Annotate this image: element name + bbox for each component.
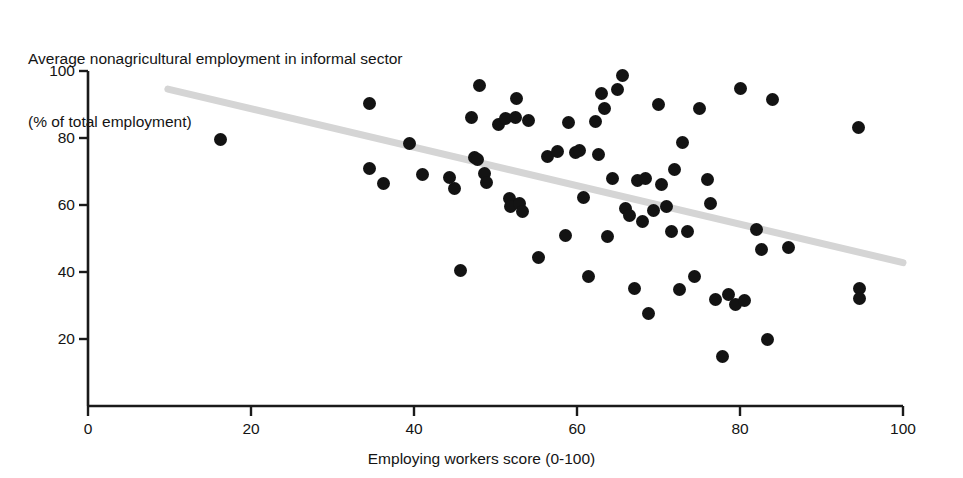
x-axis-title: Employing workers score (0-100): [0, 450, 963, 468]
data-point: [766, 93, 779, 106]
data-point: [750, 223, 763, 236]
data-point: [522, 114, 535, 127]
x-tick-label-80: 80: [717, 420, 763, 438]
data-point: [647, 204, 660, 217]
data-point: [480, 176, 493, 189]
y-tick-label-100: 100: [31, 62, 75, 80]
data-point: [716, 350, 729, 363]
data-point: [709, 293, 722, 306]
y-tick-label-60: 60: [31, 196, 75, 214]
data-point: [473, 79, 486, 92]
data-point: [755, 243, 768, 256]
data-point: [673, 283, 686, 296]
data-point: [688, 270, 701, 283]
data-point: [509, 111, 522, 124]
y-tick-label-40: 40: [31, 263, 75, 281]
data-point: [636, 215, 649, 228]
x-tick-label-0: 0: [65, 420, 111, 438]
data-point: [416, 168, 429, 181]
trendline: [168, 89, 903, 263]
x-tick-label-40: 40: [391, 420, 437, 438]
axes-layer: [0, 0, 963, 478]
x-tick-label-100: 100: [880, 420, 926, 438]
x-tick-label-60: 60: [554, 420, 600, 438]
x-tick-label-20: 20: [228, 420, 274, 438]
data-point: [623, 209, 636, 222]
data-point: [616, 69, 629, 82]
data-point: [582, 270, 595, 283]
data-point: [559, 229, 572, 242]
data-point: [592, 148, 605, 161]
y-tick-label-80: 80: [31, 129, 75, 147]
scatter-chart-figure: Average nonagricultural employment in in…: [0, 0, 963, 478]
y-tick-label-20: 20: [31, 330, 75, 348]
data-point: [628, 282, 641, 295]
data-point: [577, 191, 590, 204]
data-point: [403, 137, 416, 150]
data-point: [551, 145, 564, 158]
data-point: [454, 264, 467, 277]
data-point: [448, 182, 461, 195]
data-point: [639, 172, 652, 185]
plot-area: 20406080100020406080100: [0, 0, 963, 478]
data-point: [595, 87, 608, 100]
data-point: [465, 111, 478, 124]
data-point: [516, 205, 529, 218]
data-point: [676, 136, 689, 149]
data-point: [761, 333, 774, 346]
data-point: [734, 82, 747, 95]
